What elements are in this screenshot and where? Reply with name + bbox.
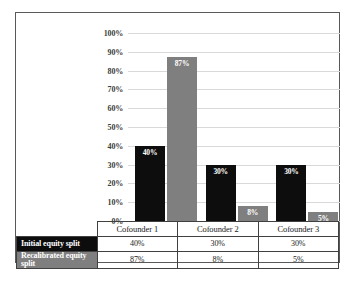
category-header-0: Cofounder 1 [97, 222, 178, 237]
y-axis-tick-label: 40% [108, 141, 123, 150]
category-header-1: Cofounder 2 [178, 222, 259, 237]
chart-data-table: Cofounder 1 Cofounder 2 Cofounder 3 Init… [16, 221, 339, 269]
table-row-categories: Cofounder 1 Cofounder 2 Cofounder 3 [17, 222, 339, 237]
bar[interactable]: 8% [238, 206, 268, 221]
bar[interactable]: 40% [135, 146, 165, 221]
chart-container: 100%90%80%70%60%50%40%30%20%10%0%40%87%3… [15, 12, 340, 263]
bar-value-label: 30% [276, 167, 306, 176]
y-axis-tick-label: 100% [104, 29, 123, 38]
bar[interactable]: 5% [308, 212, 338, 221]
table-corner-cell [17, 222, 98, 237]
cell-recal-2: 5% [258, 252, 339, 269]
bar-group-2: 30%8% [199, 33, 270, 221]
bar-value-label: 40% [135, 148, 165, 157]
cell-recal-1: 8% [178, 252, 259, 269]
y-axis-tick-label: 80% [108, 66, 123, 75]
y-axis-tick-label: 90% [108, 47, 123, 56]
cell-initial-2: 30% [258, 237, 339, 252]
y-axis-tick-label: 30% [108, 160, 123, 169]
y-axis-tick-label: 10% [108, 198, 123, 207]
plot-area: 100%90%80%70%60%50%40%30%20%10%0%40%87%3… [128, 33, 340, 221]
y-axis-tick-label: 70% [108, 85, 123, 94]
y-axis-tick-label: 20% [108, 179, 123, 188]
y-axis-tick-label: 60% [108, 104, 123, 113]
y-axis-tick-label: 50% [108, 123, 123, 132]
bar[interactable]: 30% [206, 165, 236, 221]
bar[interactable]: 87% [167, 57, 197, 221]
bar[interactable]: 30% [276, 165, 306, 221]
category-header-2: Cofounder 3 [258, 222, 339, 237]
bar-group-3: 30%5% [269, 33, 340, 221]
cell-initial-0: 40% [97, 237, 178, 252]
cell-recal-0: 87% [97, 252, 178, 269]
series-label-recalibrated: Recalibrated equity split [17, 252, 98, 269]
table-row: Initial equity split 40% 30% 30% [17, 237, 339, 252]
plot-wrapper: 100%90%80%70%60%50%40%30%20%10%0%40%87%3… [16, 13, 339, 221]
table-row: Recalibrated equity split 87% 8% 5% [17, 252, 339, 269]
bar-value-label: 8% [238, 208, 268, 217]
bar-group-1: 40%87% [128, 33, 199, 221]
series-label-initial: Initial equity split [17, 237, 98, 252]
bar-value-label: 30% [206, 167, 236, 176]
cell-initial-1: 30% [178, 237, 259, 252]
bar-value-label: 87% [167, 59, 197, 68]
